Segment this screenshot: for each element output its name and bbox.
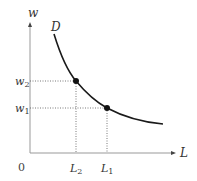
x-axis-arrow-icon — [171, 151, 176, 155]
L2-label: L2 — [69, 162, 82, 176]
demand-diagram: w D L 0 w2 w1 L2 L1 — [0, 0, 197, 181]
L1-label: L1 — [100, 162, 113, 176]
w2-label: w2 — [15, 75, 30, 89]
x-axis-label: L — [179, 146, 188, 160]
origin-label: 0 — [18, 161, 25, 174]
y-axis-arrow-icon — [28, 22, 32, 27]
point-w2-L2 — [73, 78, 79, 84]
curve-label: D — [50, 20, 61, 34]
y-axis-label: w — [28, 6, 39, 20]
w1-label: w1 — [15, 102, 30, 116]
point-w1-L1 — [104, 105, 110, 111]
